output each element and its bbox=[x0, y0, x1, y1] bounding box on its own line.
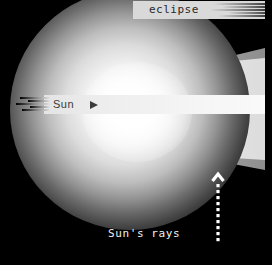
suns-rays-arrow-up-icon bbox=[211, 170, 225, 242]
dotted-arrow-svg bbox=[211, 170, 225, 242]
sun-speed-streaks bbox=[14, 95, 50, 114]
eclipse-speed-streaks bbox=[205, 1, 272, 19]
sun-label: Sun bbox=[44, 95, 272, 114]
sun-label-text: Sun bbox=[53, 97, 74, 112]
frame-border-right bbox=[265, 0, 272, 265]
eclipse-label-text: eclipse bbox=[149, 3, 199, 17]
suns-rays-label: Sun's rays bbox=[108, 227, 180, 241]
eclipse-label: eclipse bbox=[133, 1, 272, 19]
eclipse-diagram-canvas: eclipse Sun Sun's rays bbox=[0, 0, 272, 265]
triangle-right-icon bbox=[90, 101, 98, 109]
shadow-cone-svg bbox=[0, 0, 272, 265]
frame-border-left bbox=[0, 0, 2, 265]
shadow-cone-group bbox=[0, 0, 272, 265]
